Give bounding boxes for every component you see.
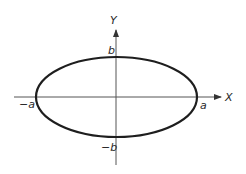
neg-x-intercept-label: −a [19, 98, 35, 111]
y-axis-label: Y [110, 14, 118, 27]
ellipse-diagram: Y X b −b a −a [0, 0, 246, 174]
x-axis-label: X [224, 91, 233, 104]
pos-x-intercept-label: a [200, 99, 207, 112]
pos-y-intercept-label: b [108, 44, 115, 57]
neg-y-intercept-label: −b [101, 141, 117, 154]
